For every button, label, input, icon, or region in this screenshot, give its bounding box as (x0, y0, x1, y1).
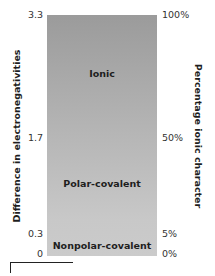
left-tick-3-3: 3.3 (28, 9, 43, 20)
left-tick-1-7: 1.7 (28, 132, 43, 143)
left-tick-0: 0 (37, 248, 43, 259)
bond-type-gradient-bar (47, 15, 157, 256)
region-label-nonpolar-covalent: Nonpolar-covalent (47, 240, 157, 251)
bottom-bracket-line (10, 262, 73, 273)
region-label-ionic: Ionic (47, 68, 157, 79)
left-axis-title: Difference in electronegativities (11, 50, 22, 223)
right-tick-50: 50% (162, 132, 183, 143)
right-axis-title: Percentage ionic character (193, 64, 204, 208)
right-tick-100: 100% (162, 9, 189, 20)
left-tick-0-3: 0.3 (28, 228, 43, 239)
region-label-polar-covalent: Polar-covalent (47, 178, 157, 189)
right-tick-0: 0% (162, 248, 177, 259)
right-tick-5: 5% (162, 228, 177, 239)
